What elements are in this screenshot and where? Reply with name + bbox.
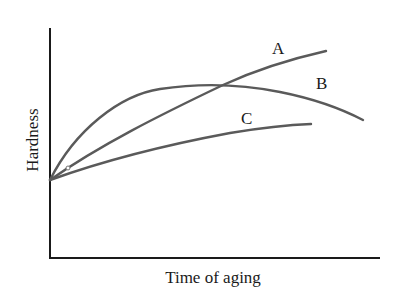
- curve-a: [50, 51, 326, 180]
- curve-c: [50, 124, 311, 180]
- origin-marker: [66, 166, 70, 170]
- curve-a-label: A: [272, 39, 285, 58]
- curve-b-label: B: [316, 74, 327, 93]
- curve-c-label: C: [241, 109, 252, 128]
- x-axis-label: Time of aging: [165, 268, 261, 287]
- y-axis-label: Hardness: [23, 108, 42, 171]
- aging-hardness-chart: A B C Time of aging Hardness: [0, 0, 399, 294]
